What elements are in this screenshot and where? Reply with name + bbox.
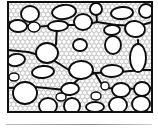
figure-root bbox=[0, 0, 158, 130]
pore-ellipse bbox=[28, 22, 40, 32]
pore-ellipse bbox=[36, 43, 58, 63]
pore-ellipse bbox=[105, 36, 121, 54]
pore-ellipse bbox=[112, 83, 130, 97]
adjacent-figure-edge bbox=[6, 124, 152, 125]
pore-ellipse bbox=[130, 44, 146, 72]
pore-ellipse bbox=[101, 65, 123, 78]
pore-ellipse bbox=[91, 92, 101, 100]
pore-ellipse bbox=[139, 4, 153, 18]
pore-ellipse bbox=[134, 82, 150, 96]
pore-ellipse bbox=[9, 19, 28, 32]
pore-ellipse bbox=[69, 60, 94, 79]
pore-ellipse bbox=[48, 21, 68, 32]
pore-ellipse bbox=[109, 97, 127, 113]
pore-ellipse bbox=[73, 39, 87, 51]
pore-ellipse bbox=[56, 93, 66, 101]
pore-ellipse bbox=[104, 25, 121, 36]
pore-ellipse bbox=[86, 102, 104, 112]
pore-ellipse bbox=[132, 96, 150, 112]
pore-ellipse bbox=[111, 6, 134, 20]
pore-ellipse bbox=[9, 73, 19, 81]
pore-ellipse bbox=[90, 3, 102, 15]
pore-ellipse bbox=[13, 82, 37, 104]
microstructure-diagram bbox=[0, 0, 158, 130]
pore-ellipse bbox=[74, 14, 92, 30]
pore-ellipse bbox=[101, 82, 109, 90]
pore-ellipse bbox=[21, 6, 39, 22]
